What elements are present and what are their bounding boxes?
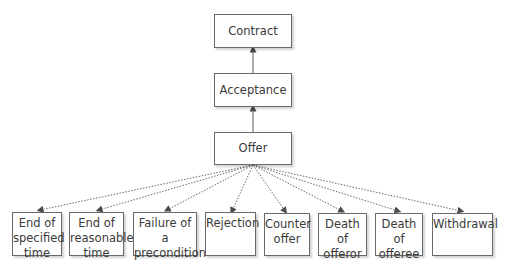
node-contract-label: Contract (228, 24, 277, 39)
label-line: time (70, 246, 123, 261)
edge-offer-death-offeror (253, 165, 342, 211)
edge-offer-rejection (232, 165, 253, 211)
node-end-reasonable-time: End of reasonable time (69, 212, 124, 256)
node-offer: Offer (214, 132, 292, 165)
label-line: reasonable (70, 231, 123, 246)
node-rejection: Rejection (205, 212, 256, 256)
node-withdrawal: Withdrawal (432, 213, 493, 256)
label-line: Failure of a (134, 216, 196, 246)
node-end-specified-time: End of specified time (12, 212, 62, 256)
node-acceptance-label: Acceptance (220, 83, 287, 98)
label-line: offeree (376, 247, 422, 262)
edge-offer-end-specified (40, 165, 253, 210)
label-line: Death of (376, 217, 422, 247)
edge-offer-withdrawal (253, 165, 461, 211)
edge-offer-failure-precondition (167, 165, 253, 210)
node-death-offeror: Death of offeror (318, 213, 367, 256)
label-line: precondition (134, 246, 196, 261)
node-contract: Contract (214, 14, 292, 48)
label-line: offer (265, 232, 309, 247)
label-line: offeror (319, 247, 366, 262)
edge-offer-death-offeree (253, 165, 398, 211)
label-line: Death of (319, 217, 366, 247)
node-acceptance: Acceptance (214, 73, 292, 107)
label-line: Withdrawal (433, 217, 492, 232)
label-line: specified (13, 231, 61, 246)
label-line: Rejection (206, 216, 255, 231)
label-line: time (13, 246, 61, 261)
edge-offer-counter-offer (253, 165, 285, 211)
label-line: End of (70, 216, 123, 231)
node-failure-precondition: Failure of a precondition (133, 212, 197, 256)
node-offer-label: Offer (239, 141, 268, 156)
edge-offer-end-reasonable (99, 165, 253, 210)
node-death-offeree: Death of offeree (375, 213, 423, 256)
node-counter-offer: Counter offer (264, 213, 310, 256)
label-line: Counter (265, 217, 309, 232)
label-line: End of (13, 216, 61, 231)
